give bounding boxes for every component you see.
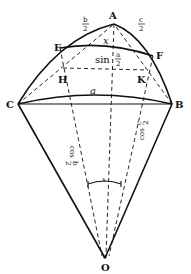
- label-b: B: [175, 99, 183, 110]
- label-x-angle: x: [102, 176, 106, 184]
- label-k: K: [137, 74, 146, 85]
- cos-b-prefix: cos: [68, 146, 76, 158]
- label-cos-half-c: cos c 2: [135, 121, 150, 140]
- label-c: C: [6, 99, 14, 110]
- spherical-triangle-diagram: A E F H K C B O b 2 c 2 x sin a 2 a cos …: [0, 0, 191, 274]
- chord-hk: [63, 68, 148, 70]
- label-sin: sin: [95, 54, 110, 65]
- arc-cb: [18, 95, 172, 104]
- label-o: O: [101, 262, 110, 273]
- chord-ab: [114, 24, 172, 104]
- label-cos-half-b: cos b 2: [64, 146, 79, 166]
- line-fo: [109, 56, 153, 256]
- label-h: H: [58, 74, 67, 85]
- label-e: E: [54, 42, 62, 53]
- vertex-o-dot: [103, 255, 106, 258]
- label-half-b-den: 2: [83, 25, 87, 33]
- label-side-a: a: [90, 85, 96, 96]
- label-sin-den: 2: [116, 60, 120, 68]
- line-co: [18, 104, 105, 258]
- cos-c-den: 2: [142, 121, 150, 125]
- label-x-top: x: [103, 35, 109, 46]
- cos-b-den: 2: [64, 161, 72, 165]
- cos-c-prefix: cos: [138, 128, 146, 140]
- label-f: F: [156, 50, 163, 61]
- label-a: A: [108, 10, 117, 21]
- line-bo: [105, 104, 172, 258]
- label-sin-num: a: [116, 51, 120, 59]
- label-half-c-num: c: [139, 16, 143, 24]
- label-half-b-num: b: [83, 16, 88, 24]
- label-half-c-den: 2: [139, 25, 143, 33]
